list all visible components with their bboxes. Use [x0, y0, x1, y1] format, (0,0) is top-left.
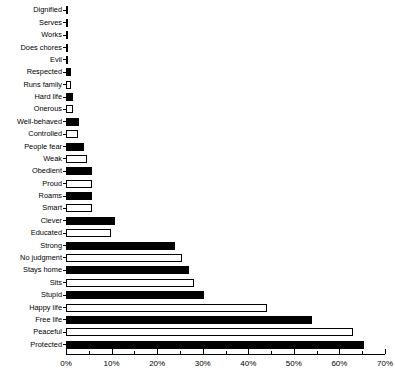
bar-wrapper	[66, 6, 68, 14]
bar	[66, 192, 92, 200]
bar	[66, 328, 353, 336]
bar	[66, 341, 364, 349]
bar	[66, 167, 92, 175]
x-axis-minor-tick	[134, 351, 135, 354]
bar	[66, 217, 115, 225]
bar-wrapper	[66, 105, 73, 113]
x-axis-tick-label: 50%	[286, 359, 302, 368]
bar-wrapper	[66, 266, 189, 274]
bar	[66, 254, 182, 262]
bar	[66, 316, 312, 324]
x-axis-major-tick	[294, 349, 295, 354]
bar-row: Protected	[0, 338, 395, 350]
bar-category-label: Controlled	[28, 130, 62, 138]
x-axis-tick-label: 40%	[240, 359, 256, 368]
bar-category-label: Works	[41, 31, 62, 39]
bar-wrapper	[66, 44, 68, 52]
bar	[66, 266, 189, 274]
bar	[66, 68, 71, 76]
bar-wrapper	[66, 316, 312, 324]
bar	[66, 31, 68, 39]
bar-row: Serves	[0, 17, 395, 29]
bar	[66, 93, 73, 101]
bar-row: Controlled	[0, 128, 395, 140]
bar-wrapper	[66, 68, 71, 76]
bar	[66, 81, 71, 89]
bar-category-label: Respected	[27, 68, 62, 76]
bar-row: Free life	[0, 314, 395, 326]
bar	[66, 204, 92, 212]
bar	[66, 105, 73, 113]
bar-category-label: Evil	[50, 56, 62, 64]
bar-wrapper	[66, 204, 92, 212]
bar-wrapper	[66, 143, 84, 151]
bar	[66, 6, 68, 14]
x-axis-tick-label: 70%	[377, 359, 393, 368]
bar-row: Stays home	[0, 264, 395, 276]
bar-category-label: Roams	[39, 192, 62, 200]
x-axis-tick-label: 30%	[195, 359, 211, 368]
bar-wrapper	[66, 192, 92, 200]
x-axis-tick-label: 0%	[60, 359, 72, 368]
bar-category-label: No judgment	[20, 254, 62, 262]
bar-row: Obedient	[0, 165, 395, 177]
bar-category-label: Well-behaved	[17, 118, 62, 126]
bar-wrapper	[66, 242, 175, 250]
bar-wrapper	[66, 167, 92, 175]
x-axis-minor-tick	[89, 351, 90, 354]
x-axis-line	[66, 354, 385, 355]
x-axis-major-tick	[339, 349, 340, 354]
bar	[66, 242, 175, 250]
x-axis-tick-label: 60%	[331, 359, 347, 368]
bar-category-label: Obedient	[32, 167, 62, 175]
bar-wrapper	[66, 180, 92, 188]
bar-row: Works	[0, 29, 395, 41]
bar-row: Evil	[0, 54, 395, 66]
bar-category-label: Smart	[42, 204, 62, 212]
bar-category-label: Strong	[40, 242, 62, 250]
bar-row: Respected	[0, 66, 395, 78]
bar-wrapper	[66, 155, 87, 163]
x-axis-minor-tick	[362, 351, 363, 354]
plot-area: DignifiedServesWorksDoes choresEvilRespe…	[0, 0, 395, 373]
bar-wrapper	[66, 81, 71, 89]
bar	[66, 56, 68, 64]
x-axis-major-tick	[157, 349, 158, 354]
x-axis-minor-tick	[317, 351, 318, 354]
bar-category-label: Peaceful	[33, 328, 62, 336]
bar-row: People fear	[0, 140, 395, 152]
bar-category-label: Free life	[35, 316, 62, 324]
bar-category-label: People fear	[24, 143, 62, 151]
bar-category-label: Educated	[31, 229, 62, 237]
bar-row: Educated	[0, 227, 395, 239]
bar-category-label: Hard life	[34, 93, 62, 101]
bar-wrapper	[66, 291, 204, 299]
bar-category-label: Does chores	[21, 44, 63, 52]
x-axis-minor-tick	[271, 351, 272, 354]
bar-row: Happy life	[0, 301, 395, 313]
x-axis-major-tick	[248, 349, 249, 354]
bar-wrapper	[66, 217, 115, 225]
bar-row: Does chores	[0, 41, 395, 53]
bar-row: Proud	[0, 178, 395, 190]
bar-category-label: Runs family	[23, 81, 62, 89]
bar-category-label: Happy life	[29, 304, 62, 312]
bar	[66, 279, 194, 287]
bar-category-label: Clever	[41, 217, 62, 225]
bar-wrapper	[66, 19, 68, 27]
bar-row: Well-behaved	[0, 116, 395, 128]
bar-row: Peaceful	[0, 326, 395, 338]
bar-category-label: Stupid	[41, 291, 62, 299]
bar-row: Sits	[0, 277, 395, 289]
bar-row: Hard life	[0, 91, 395, 103]
x-axis-major-tick	[203, 349, 204, 354]
bar-category-label: Proud	[42, 180, 62, 188]
bar-row: Runs family	[0, 78, 395, 90]
x-axis-major-tick	[66, 349, 67, 354]
bar-wrapper	[66, 93, 73, 101]
bar	[66, 19, 68, 27]
bar-wrapper	[66, 31, 68, 39]
bar	[66, 291, 204, 299]
bar-row: No judgment	[0, 252, 395, 264]
bar-row: Onerous	[0, 103, 395, 115]
